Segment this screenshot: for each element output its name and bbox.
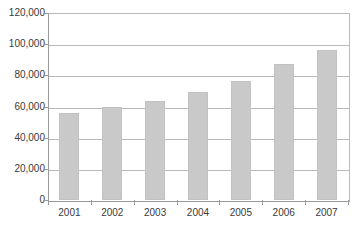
y-axis-tick-label: 120,000 — [1, 8, 45, 18]
bar — [231, 81, 251, 200]
x-axis-tick-label: 2004 — [177, 207, 220, 219]
x-axis-tick-label: 2001 — [48, 207, 91, 219]
x-axis-tick-mark — [134, 200, 135, 205]
bar-chart: 020,00040,00060,00080,000100,000120,000 … — [0, 0, 357, 238]
bar — [102, 107, 122, 201]
y-axis-tick-label: 60,000 — [1, 102, 45, 112]
x-axis-tick-mark — [219, 200, 220, 205]
bar — [317, 50, 337, 200]
x-axis-tick-mark — [262, 200, 263, 205]
bar — [188, 92, 208, 200]
x-axis-tick-mark — [177, 200, 178, 205]
bar — [274, 64, 294, 200]
x-axis: 2001200220032004200520062007 — [48, 207, 348, 223]
y-axis-tick-label: 100,000 — [1, 39, 45, 49]
y-axis-tick-label: 0 — [1, 195, 45, 205]
x-axis-tick-label: 2007 — [305, 207, 348, 219]
y-axis-tick-label: 20,000 — [1, 164, 45, 174]
y-axis-tick-label: 40,000 — [1, 133, 45, 143]
x-axis-tick-mark — [48, 200, 49, 205]
x-axis-tick-mark — [348, 200, 349, 205]
x-axis-tick-label: 2002 — [91, 207, 134, 219]
x-axis-ticks — [48, 200, 349, 205]
bar-series — [48, 13, 348, 200]
x-axis-tick-label: 2006 — [262, 207, 305, 219]
x-axis-tick-mark — [305, 200, 306, 205]
y-axis: 020,00040,00060,00080,000100,000120,000 — [0, 0, 45, 238]
x-axis-tick-label: 2005 — [219, 207, 262, 219]
x-axis-tick-label: 2003 — [134, 207, 177, 219]
bar — [145, 101, 165, 200]
bar — [59, 113, 79, 200]
x-axis-tick-mark — [91, 200, 92, 205]
y-axis-tick-label: 80,000 — [1, 70, 45, 80]
